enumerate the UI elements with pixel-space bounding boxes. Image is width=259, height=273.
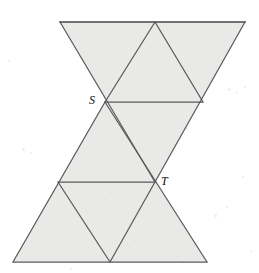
vertex-label-s: S — [89, 94, 95, 106]
triangle-diagram-svg — [0, 0, 259, 273]
geometry-figure: S T — [0, 0, 259, 273]
vertex-label-t: T — [161, 175, 168, 187]
